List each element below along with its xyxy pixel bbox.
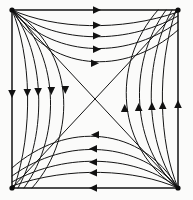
arrowhead-right-2 [159,101,167,109]
arrowhead-top-4 [93,46,101,54]
arrowhead-bottom-2 [89,169,97,176]
critical-point-top-right [175,7,180,12]
critical-point-bottom-left [9,185,14,190]
critical-point-bottom-right [175,185,180,190]
phase-portrait-figure [0,0,193,200]
arrowhead-top-3 [93,32,101,39]
arrowhead-right-1 [174,100,182,108]
arrowhead-left-3 [34,88,42,96]
trajectory-right-3 [151,10,178,188]
arrowhead-top-5 [91,60,99,68]
arrowhead-bottom-1 [89,184,97,192]
arrowhead-left-2 [24,89,32,97]
critical-point-top-left [9,7,14,12]
arrowhead-top-1 [93,6,101,14]
trajectory-group-right [121,10,182,188]
arrowhead-left-1 [8,90,16,98]
trajectory-left-3 [12,10,39,188]
arrowhead-right-4 [135,103,143,111]
phase-portrait-canvas [0,0,193,200]
arrowhead-right-3 [148,102,156,110]
arrowhead-bottom-3 [89,158,97,165]
arrowhead-bottom-5 [91,131,99,139]
trajectory-group-left [8,10,69,188]
arrowhead-top-2 [93,22,101,29]
arrowhead-left-4 [48,87,56,95]
arrowhead-bottom-4 [89,145,97,153]
